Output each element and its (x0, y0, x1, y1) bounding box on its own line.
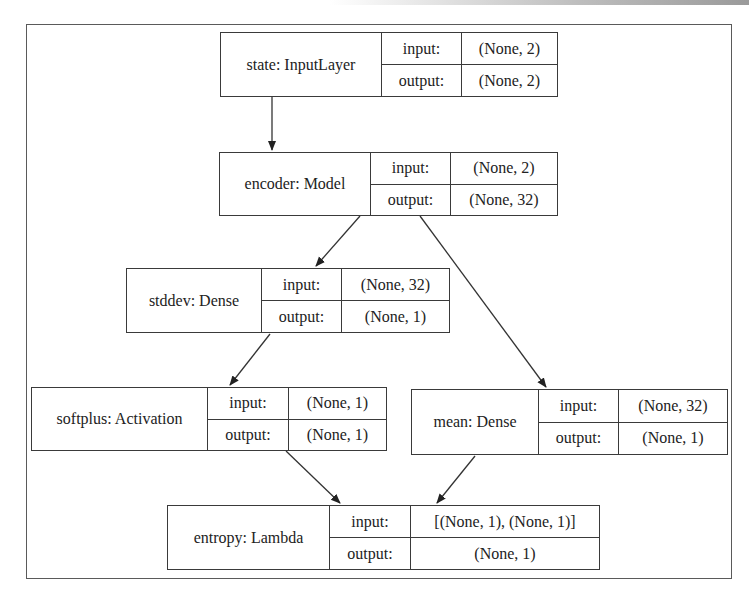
output-label: output: (208, 420, 288, 451)
output-shape: (None, 32) (451, 185, 557, 216)
node-state: state: InputLayer input: output: (None, … (220, 32, 558, 97)
node-name: stddev: Dense (127, 269, 262, 332)
input-label: input: (371, 153, 450, 185)
output-label: output: (539, 423, 618, 455)
input-shape: [(None, 1), (None, 1)] (411, 506, 599, 538)
output-shape: (None, 1) (411, 538, 599, 569)
input-shape: (None, 32) (619, 390, 727, 423)
output-shape: (None, 1) (289, 420, 386, 451)
node-entropy: entropy: Lambda input: output: [(None, 1… (167, 505, 600, 570)
node-encoder: encoder: Model input: output: (None, 2) … (219, 152, 558, 216)
output-shape: (None, 1) (619, 423, 727, 455)
node-softplus: softplus: Activation input: output: (Non… (31, 387, 387, 451)
node-name: entropy: Lambda (168, 506, 330, 569)
input-shape: (None, 2) (462, 33, 557, 65)
top-edge-shadow (330, 0, 749, 5)
input-shape: (None, 1) (289, 388, 386, 420)
node-stddev: stddev: Dense input: output: (None, 32) … (126, 268, 450, 333)
input-label: input: (262, 269, 341, 301)
input-label: input: (330, 506, 410, 538)
output-label: output: (330, 538, 410, 569)
input-label: input: (208, 388, 288, 420)
node-name: mean: Dense (412, 390, 539, 454)
node-name: state: InputLayer (221, 33, 382, 96)
input-shape: (None, 32) (342, 269, 449, 301)
node-name: encoder: Model (220, 153, 371, 215)
output-label: output: (382, 65, 461, 96)
node-name: softplus: Activation (32, 388, 208, 450)
input-shape: (None, 2) (451, 153, 557, 185)
node-mean: mean: Dense input: output: (None, 32) (N… (411, 389, 728, 455)
input-label: input: (382, 33, 461, 65)
output-label: output: (262, 301, 341, 332)
output-shape: (None, 1) (342, 301, 449, 332)
input-label: input: (539, 390, 618, 423)
output-shape: (None, 2) (462, 65, 557, 96)
output-label: output: (371, 185, 450, 216)
